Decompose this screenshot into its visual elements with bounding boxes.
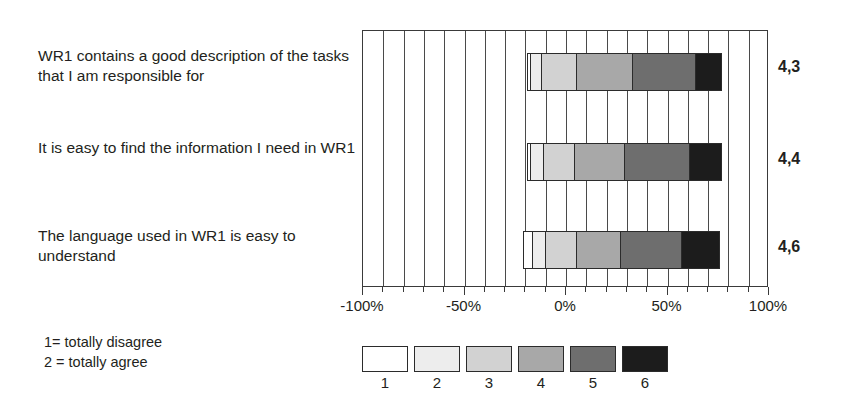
legend-item: 2 — [414, 346, 460, 391]
bar-segment-3 — [545, 231, 577, 269]
axis-tick-label: 0% — [554, 297, 576, 314]
legend-label: 4 — [518, 374, 564, 391]
mean-value: 4,6 — [778, 238, 800, 256]
axis-tick-minor — [382, 287, 383, 292]
axis-tick-minor — [443, 287, 444, 292]
axis-tick-label: -50% — [446, 297, 481, 314]
axis-tick-minor — [423, 287, 424, 292]
bar-segment-3 — [541, 53, 578, 91]
likert-chart: WR1 contains a good description of the t… — [0, 0, 846, 412]
axis-tick-minor — [707, 287, 708, 292]
legend-swatch-2 — [414, 346, 460, 372]
bar-segment-4 — [574, 143, 625, 181]
axis-tick-minor — [687, 287, 688, 292]
legend-swatch-3 — [466, 346, 512, 372]
scale-key-line-1: 1= totally disagree — [44, 332, 344, 352]
legend-swatch-4 — [518, 346, 564, 372]
axis-tick-minor — [403, 287, 404, 292]
legend-item: 3 — [466, 346, 512, 391]
bar-segment-5 — [632, 53, 697, 91]
legend-label: 2 — [414, 374, 460, 391]
axis-tick-major — [768, 287, 769, 295]
plot-area — [362, 30, 768, 287]
bar-segment-5 — [624, 143, 691, 181]
bar-segment-4 — [576, 53, 633, 91]
legend-item: 1 — [362, 346, 408, 391]
axis-tick-minor — [646, 287, 647, 292]
stacked-bar — [527, 143, 720, 181]
scale-key-line-2: 2 = totally agree — [44, 352, 344, 372]
bar-segment-3 — [543, 143, 575, 181]
legend-label: 1 — [362, 374, 408, 391]
axis-tick-minor — [585, 287, 586, 292]
axis-tick-major — [565, 287, 566, 295]
bar-segment-6 — [681, 231, 720, 269]
axis-tick-major — [667, 287, 668, 295]
axis-tick-major — [464, 287, 465, 295]
legend-label: 6 — [622, 374, 668, 391]
legend-swatch-1 — [362, 346, 408, 372]
legend-item: 5 — [570, 346, 616, 391]
bar-group — [363, 31, 767, 286]
legend-swatch-5 — [570, 346, 616, 372]
legend-item: 6 — [622, 346, 668, 391]
axis-tick-minor — [545, 287, 546, 292]
legend-label: 5 — [570, 374, 616, 391]
stacked-bar — [527, 53, 720, 91]
mean-value-list: 4,3 4,4 4,6 — [778, 30, 842, 288]
bar-segment-6 — [695, 53, 721, 91]
bar-segment-5 — [620, 231, 683, 269]
stacked-bar — [523, 231, 718, 269]
x-axis: -100%-50%0%50%100% — [362, 287, 768, 288]
legend-item: 4 — [518, 346, 564, 391]
statement-label: The language used in WR1 is easy to unde… — [38, 226, 356, 266]
statement-label: WR1 contains a good description of the t… — [38, 46, 356, 86]
axis-tick-label: 100% — [749, 297, 787, 314]
bar-segment-6 — [689, 143, 721, 181]
axis-tick-minor — [727, 287, 728, 292]
axis-tick-minor — [626, 287, 627, 292]
axis-tick-minor — [748, 287, 749, 292]
statement-label-list: WR1 contains a good description of the t… — [38, 30, 358, 288]
axis-tick-label: 50% — [651, 297, 681, 314]
axis-tick-minor — [606, 287, 607, 292]
statement-label: It is easy to find the information I nee… — [38, 138, 356, 158]
legend-label: 3 — [466, 374, 512, 391]
axis-tick-label: -100% — [340, 297, 383, 314]
axis-tick-minor — [524, 287, 525, 292]
legend: 123456 — [362, 346, 682, 402]
mean-value: 4,4 — [778, 150, 800, 168]
mean-value: 4,3 — [778, 58, 800, 76]
axis-tick-minor — [484, 287, 485, 292]
axis-tick-minor — [504, 287, 505, 292]
scale-key: 1= totally disagree 2 = totally agree — [44, 332, 344, 372]
axis-tick-major — [362, 287, 363, 295]
bar-segment-4 — [576, 231, 621, 269]
legend-swatch-6 — [622, 346, 668, 372]
